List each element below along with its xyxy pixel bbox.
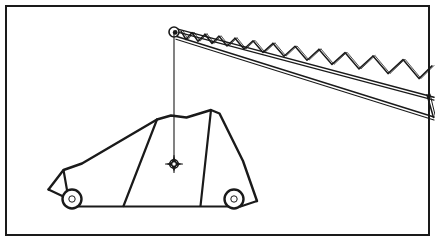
figure-root: Crane lattice boom lifting a car by its …	[0, 0, 435, 241]
boom-top-chord	[176, 29, 434, 101]
crane-lifting-car-illustration	[0, 0, 435, 241]
car-windshield-line	[124, 120, 158, 207]
lattice-boom	[176, 29, 435, 120]
car-c-pillar-line	[201, 110, 212, 206]
center-of-gravity-marker	[166, 156, 183, 173]
car-body-outline	[49, 110, 258, 201]
rear-wheel	[225, 190, 244, 209]
front-wheel	[63, 190, 82, 209]
car-front-pillar	[64, 170, 68, 190]
boom-bottom-chord	[176, 36, 434, 120]
